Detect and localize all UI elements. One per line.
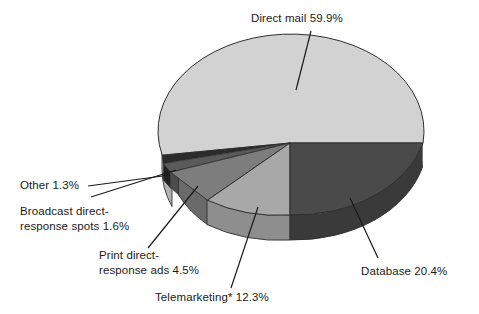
leader-line-print: [148, 186, 198, 248]
slice-label-print-line-2: response ads 4.5%: [99, 263, 199, 278]
slice-label-broadcast-line-2: response spots 1.6%: [20, 219, 129, 234]
slice-label-other: Other 1.3%: [20, 178, 79, 193]
slice-label-direct-mail: Direct mail 59.9%: [251, 11, 343, 26]
slice-label-telemarketing: Telemarketing* 12.3%: [155, 290, 269, 305]
pie-slice-direct-mail[interactable]: [158, 34, 424, 155]
pie-top-faces: [158, 34, 424, 215]
pie-chart-figure: Direct mail 59.9% Database 20.4% Telemar…: [0, 0, 479, 314]
slice-label-print-line-1: Print direct-: [99, 248, 159, 263]
slice-label-broadcast-line-1: Broadcast direct-: [20, 204, 109, 219]
slice-label-database: Database 20.4%: [361, 264, 447, 279]
